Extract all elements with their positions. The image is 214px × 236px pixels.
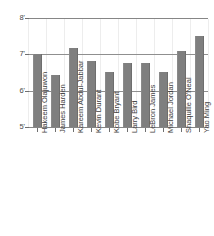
x-axis-label: Michael Jordan — [167, 82, 175, 133]
vertical-gridline — [28, 19, 29, 127]
x-axis-tick — [145, 128, 146, 132]
y-axis-tick-label: 5' — [3, 123, 25, 131]
x-axis-label: Kareem Abdul-Jabbar — [77, 60, 85, 133]
x-axis-label: Larry Bird — [131, 100, 139, 133]
x-axis-tick — [55, 128, 56, 132]
bar-chart-nba-player-heights: 8'7'6'5' Hakeem OlajuwonJames HardenKare… — [0, 0, 214, 236]
x-axis-tick — [127, 128, 128, 132]
y-axis-tick-label: 6' — [3, 87, 25, 95]
x-axis-label: Shaquille O'Neal — [185, 77, 193, 133]
y-axis-tick-mark — [25, 54, 29, 55]
y-axis-tick-mark — [25, 91, 29, 92]
x-axis-tick — [199, 128, 200, 132]
y-axis-tick-label: 8' — [3, 14, 25, 22]
x-axis-label: Kevin Durant — [95, 90, 103, 133]
x-axis-tick — [73, 128, 74, 132]
x-axis-tick — [37, 128, 38, 132]
x-axis-tick — [91, 128, 92, 132]
x-axis-label: Hakeem Olajuwon — [41, 72, 49, 133]
y-axis-tick-mark — [25, 127, 29, 128]
x-axis-label: Yao Ming — [203, 102, 211, 133]
x-axis-tick — [163, 128, 164, 132]
x-axis-label: LeBron James — [149, 85, 157, 133]
y-axis-tick-mark — [25, 18, 29, 19]
y-axis-tick-label: 7' — [3, 50, 25, 58]
x-axis-tick — [181, 128, 182, 132]
x-axis-label: James Harden — [59, 84, 67, 133]
x-axis-tick — [109, 128, 110, 132]
x-axis-label: Kobe Bryant — [113, 92, 121, 133]
